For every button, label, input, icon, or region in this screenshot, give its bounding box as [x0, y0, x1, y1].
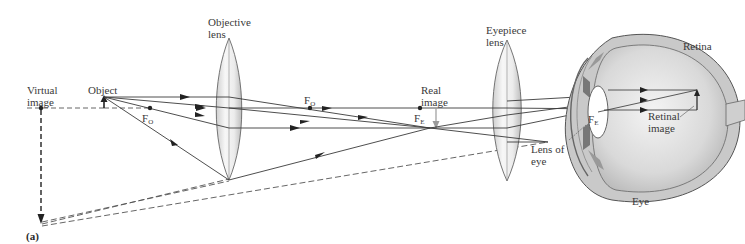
retinal-image-label: Retinal image: [648, 110, 680, 134]
focal-label-sub: E: [594, 119, 598, 127]
microscope-ray-diagram: [0, 0, 745, 244]
ray-arrowheads-left: [170, 94, 368, 159]
retina-label: Retina: [683, 40, 712, 52]
virtual-image-arrow: [38, 106, 45, 224]
focal-label-eyepiece-right: FE: [588, 113, 598, 129]
focal-label-eyepiece-left: FE: [414, 112, 424, 128]
virtual-image-label: Virtual image: [27, 84, 58, 108]
panel-label: (a): [26, 230, 39, 242]
real-image-label: Real image: [421, 84, 448, 108]
focal-label-sub: O: [148, 118, 153, 126]
lens-of-eye-label: Lens of eye: [531, 143, 564, 167]
object-label: Object: [88, 84, 117, 96]
eyepiece-lens-label: Eyepiece lens: [486, 24, 526, 48]
virtual-ray-extensions: [42, 142, 548, 226]
focal-point-objective-left: [148, 106, 152, 110]
focal-label-objective-right: FO: [304, 94, 315, 110]
objective-lens-label: Objective lens: [208, 16, 251, 40]
real-image-arrow: [433, 108, 440, 129]
focal-label-sub: O: [310, 100, 315, 108]
focal-label-sub: E: [420, 118, 424, 126]
focal-label-objective-left: FO: [142, 112, 153, 128]
eyepiece-lens: [493, 40, 522, 181]
eye-label: Eye: [632, 195, 649, 207]
